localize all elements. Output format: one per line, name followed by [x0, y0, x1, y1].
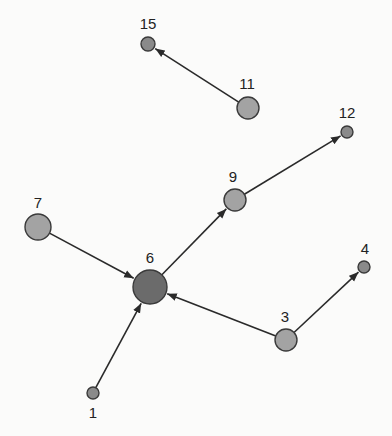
- node-15: [141, 37, 155, 51]
- node-label-6: 6: [146, 249, 154, 266]
- node-12: [341, 126, 353, 138]
- node-label-1: 1: [89, 404, 97, 421]
- node-label-4: 4: [361, 240, 369, 257]
- node-label-12: 12: [339, 104, 356, 121]
- graph-background: [0, 0, 392, 436]
- node-label-15: 15: [140, 15, 157, 32]
- node-7: [25, 214, 51, 240]
- node-4: [358, 261, 370, 273]
- node-3: [275, 329, 297, 351]
- node-1: [87, 387, 99, 399]
- node-label-7: 7: [34, 194, 42, 211]
- node-label-3: 3: [281, 308, 289, 325]
- network-graph: 134679111215: [0, 0, 392, 436]
- node-9: [224, 189, 246, 211]
- node-6: [133, 270, 167, 304]
- node-label-9: 9: [229, 168, 237, 185]
- node-label-11: 11: [239, 75, 255, 92]
- node-11: [237, 97, 259, 119]
